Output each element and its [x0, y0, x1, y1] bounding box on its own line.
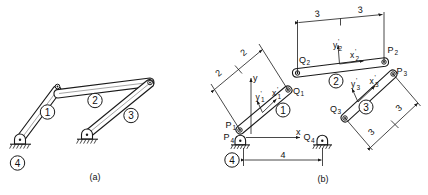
panel-b-link-2-label: 2: [333, 76, 339, 87]
figure-canvas: 1 2 3 4 (a) 1: [0, 0, 428, 195]
panel-b-link-4-label: 4: [229, 155, 235, 166]
point-label-P3: P 3: [397, 66, 408, 78]
svg-text:P: P: [388, 45, 394, 55]
panel-b-link-1: 1: [236, 86, 292, 134]
axis-x-global-label: x: [296, 127, 301, 137]
svg-text:P: P: [397, 66, 403, 76]
panel-a-caption: (a): [90, 172, 101, 182]
panel-a-link-1-badge: 1: [40, 105, 54, 119]
svg-text:3: 3: [338, 108, 342, 115]
dim-link4-value: 4: [280, 150, 285, 160]
point-label-Q4: Q 4: [304, 132, 316, 144]
panel-b-link-2-badge: 2: [329, 74, 343, 88]
svg-text:2: 2: [356, 55, 360, 62]
svg-text:3: 3: [357, 84, 361, 91]
linkage-diagram: 1 2 3 4 (a) 1: [0, 0, 428, 195]
dim-link2-a-value: 3: [314, 9, 320, 19]
svg-text:Q: Q: [304, 132, 311, 142]
panel-b-link-3-label: 3: [363, 102, 369, 113]
point-label-Q2: Q 2: [299, 55, 311, 67]
svg-text:1: 1: [301, 90, 305, 97]
panel-b-link-4-badge: 4: [225, 153, 239, 167]
svg-text:1: 1: [233, 124, 237, 131]
point-label-Q3: Q 3: [330, 104, 342, 116]
svg-text:2: 2: [339, 45, 343, 52]
dim-link1-b-value: 2: [238, 47, 248, 58]
panel-b-link-1-label: 1: [280, 105, 286, 116]
local-frame-2-labels: x ' 2 y ' 2: [333, 38, 360, 62]
svg-text:4: 4: [231, 137, 235, 144]
svg-text:Q: Q: [330, 104, 337, 114]
dim-link1-a-value: 2: [213, 68, 223, 79]
dim-link3-a-value: 3: [366, 127, 376, 138]
svg-text:P: P: [226, 120, 232, 130]
point-label-Q1: Q 1: [293, 86, 305, 98]
svg-text:2: 2: [395, 49, 399, 56]
panel-a-link-3-badge: 3: [124, 108, 138, 122]
panel-a-link-4-label: 4: [15, 158, 21, 169]
panel-a-link-1-label: 1: [45, 107, 51, 118]
dim-link4-group: 4: [244, 148, 323, 166]
svg-text:2: 2: [307, 59, 311, 66]
panel-b-link-1-badge: 1: [276, 103, 290, 117]
dim-link2-b-value: 3: [357, 5, 363, 15]
point-label-P2: P 2: [388, 45, 399, 57]
svg-text:Q: Q: [299, 55, 306, 65]
svg-text:P: P: [224, 132, 230, 142]
panel-a-link-4-badge: 4: [10, 156, 24, 170]
panel-b-ground-pivot-Q4: [313, 135, 332, 149]
panel-a-link-3-label: 3: [128, 110, 134, 121]
point-label-P4: P 4: [224, 132, 235, 144]
dim-link3-b-value: 3: [394, 103, 404, 114]
svg-text:3: 3: [404, 70, 408, 77]
panel-a-group: 1 2 3 4 (a): [10, 78, 154, 182]
svg-text:4: 4: [311, 137, 315, 144]
svg-text:Q: Q: [293, 86, 300, 96]
panel-a-link-2-badge: 2: [88, 93, 102, 107]
axis-y-global-label: y: [253, 73, 258, 83]
svg-text:1: 1: [261, 96, 265, 103]
svg-text:3: 3: [375, 81, 379, 88]
panel-a-link-2-label: 2: [92, 95, 98, 106]
panel-b-link-3-badge: 3: [359, 100, 373, 114]
panel-b-caption: (b): [318, 174, 329, 184]
svg-text:1: 1: [278, 93, 282, 100]
panel-b-group: 1 P 1 Q 1 x ' 1 y ' 1 y: [211, 5, 421, 184]
axis-y-prime-3: [352, 89, 358, 103]
